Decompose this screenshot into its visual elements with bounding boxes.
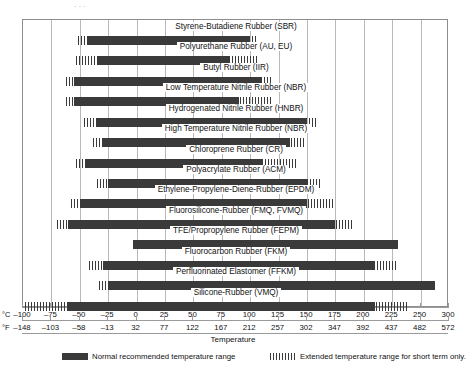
tick-label-fahrenheit: 572: [441, 323, 454, 332]
row-label: Fluorocarbon Rubber (FKM): [23, 246, 449, 257]
tick-mark-fahrenheit: [278, 316, 279, 321]
tick-mark-fahrenheit: [192, 316, 193, 321]
chart-row: High Temperature Nitrile Rubber (NBR): [23, 122, 449, 142]
tick-label-fahrenheit: 122: [186, 323, 199, 332]
row-label-text: Fluorocarbon Rubber (FKM): [182, 247, 290, 256]
row-label-text: Chloroprene Rubber (CR): [186, 145, 286, 154]
row-label-text: Fluorosilicone-Rubber (FMQ, FVMQ): [166, 206, 306, 215]
top-cutoff-text: · · ·: [0, 0, 466, 8]
tick-mark-fahrenheit: [136, 316, 137, 321]
row-label: Polyacrylate Rubber (ACM): [23, 164, 449, 175]
row-label: Low Temperature Nitrile Rubber (NBR): [23, 82, 449, 93]
row-label-text: Low Temperature Nitrile Rubber (NBR): [163, 83, 309, 92]
tick-mark-celsius: [22, 303, 23, 308]
tick-mark-fahrenheit: [50, 316, 51, 321]
tick-label-fahrenheit: 482: [413, 323, 426, 332]
row-label: Silicone-Rubber (VMQ): [23, 287, 449, 298]
chart-row: Fluorocarbon Rubber (FKM): [23, 245, 449, 265]
chart-row: Polyacrylate Rubber (ACM): [23, 163, 449, 183]
row-label: TFE/Propropylene Rubber (FEPM): [23, 225, 449, 236]
legend-swatch-normal-icon: [62, 353, 88, 360]
row-label: High Temperature Nitrile Rubber (NBR): [23, 123, 449, 134]
tick-mark-fahrenheit: [164, 316, 165, 321]
row-label: Styrene-Butadiene Rubber (SBR): [23, 21, 449, 32]
chart-row: Hydrogenated Nitrile Rubber (HNBR): [23, 102, 449, 122]
row-label-text: Hydrogenated Nitrile Rubber (HNBR): [166, 104, 307, 113]
celsius-unit-label: °C: [2, 310, 10, 319]
chart-row: Chloroprene Rubber (CR): [23, 143, 449, 163]
tick-label-fahrenheit: 347: [328, 323, 341, 332]
tick-mark-fahrenheit: [448, 316, 449, 321]
row-label-text: TFE/Propropylene Rubber (FEPM): [170, 226, 302, 235]
tick-label-fahrenheit: 167: [214, 323, 227, 332]
row-label-text: Perfluorinated Elastomer (FFKM): [173, 267, 299, 276]
row-label-text: Styrene-Butadiene Rubber (SBR): [172, 22, 300, 31]
chart-row: Styrene-Butadiene Rubber (SBR): [23, 20, 449, 40]
row-label-text: Ethylene-Propylene-Diene-Rubber (EPDM): [155, 185, 318, 194]
row-label: Ethylene-Propylene-Diene-Rubber (EPDM): [23, 184, 449, 195]
tick-label-fahrenheit: –103: [42, 323, 59, 332]
tick-mark-fahrenheit: [420, 316, 421, 321]
chart-row: Fluorosilicone-Rubber (FMQ, FVMQ): [23, 204, 449, 224]
chart-row: Silicone-Rubber (VMQ): [23, 286, 449, 306]
row-label-text: Polyurethane Rubber (AU, EU): [177, 42, 295, 51]
tick-label-fahrenheit: 392: [356, 323, 369, 332]
row-label: Perfluorinated Elastomer (FFKM): [23, 266, 449, 277]
chart-row: Perfluorinated Elastomer (FFKM): [23, 265, 449, 285]
tick-mark-fahrenheit: [249, 316, 250, 321]
row-label: Fluorosilicone-Rubber (FMQ, FVMQ): [23, 205, 449, 216]
row-label: Polyurethane Rubber (AU, EU): [23, 41, 449, 52]
tick-label-fahrenheit: –148: [13, 323, 30, 332]
bar-normal-range: [68, 302, 375, 311]
row-label: Chloroprene Rubber (CR): [23, 144, 449, 155]
tick-label-fahrenheit: 32: [131, 323, 140, 332]
chart-legend: Normal recommended temperature range Ext…: [62, 352, 462, 366]
chart-row: TFE/Propropylene Rubber (FEPM): [23, 224, 449, 244]
chart-row: Low Temperature Nitrile Rubber (NBR): [23, 81, 449, 101]
bar-track: [23, 302, 449, 311]
legend-swatch-extended-icon: [270, 353, 296, 360]
tick-mark-fahrenheit: [391, 316, 392, 321]
row-label-text: Silicone-Rubber (VMQ): [191, 288, 282, 297]
chart-row: Polyurethane Rubber (AU, EU): [23, 40, 449, 60]
tick-label-fahrenheit: –58: [72, 323, 85, 332]
legend-item-normal: Normal recommended temperature range: [62, 352, 235, 361]
row-label-text: Polyacrylate Rubber (ACM): [183, 165, 289, 174]
tick-label-fahrenheit: 302: [299, 323, 312, 332]
tick-label-fahrenheit: 212: [243, 323, 256, 332]
chart-plot-area: Styrene-Butadiene Rubber (SBR)Polyuretha…: [22, 19, 448, 307]
fahrenheit-unit-label: °F: [2, 323, 9, 332]
row-label-text: High Temperature Nitrile Rubber (NBR): [162, 124, 310, 133]
chart-row: Butyl Rubber (IIR): [23, 61, 449, 81]
legend-label-normal: Normal recommended temperature range: [92, 352, 235, 361]
tick-mark-celsius: [420, 303, 421, 308]
tick-label-fahrenheit: 77: [160, 323, 169, 332]
tick-mark-fahrenheit: [79, 316, 80, 321]
tick-mark-fahrenheit: [221, 316, 222, 321]
tick-mark-fahrenheit: [334, 316, 335, 321]
tick-mark-fahrenheit: [306, 316, 307, 321]
tick-label-fahrenheit: 257: [271, 323, 284, 332]
row-label-text: Butyl Rubber (IIR): [200, 63, 272, 72]
row-label: Hydrogenated Nitrile Rubber (HNBR): [23, 103, 449, 114]
fahrenheit-axis: °F –148–103–58–1332771221672122573023473…: [0, 321, 466, 335]
tick-mark-fahrenheit: [22, 316, 23, 321]
row-label: Butyl Rubber (IIR): [23, 62, 449, 73]
legend-label-extended: Extended temperature range for short ter…: [300, 352, 466, 361]
tick-label-fahrenheit: –13: [101, 323, 114, 332]
axis-title: Temperature: [0, 335, 466, 344]
tick-mark-celsius: [448, 303, 449, 308]
tick-mark-fahrenheit: [363, 316, 364, 321]
chart-row: Ethylene-Propylene-Diene-Rubber (EPDM): [23, 183, 449, 203]
tick-mark-fahrenheit: [107, 316, 108, 321]
tick-label-fahrenheit: 437: [385, 323, 398, 332]
legend-item-extended: Extended temperature range for short ter…: [270, 352, 466, 361]
